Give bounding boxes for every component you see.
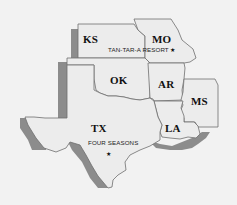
state-label-tx: TX [91, 122, 107, 134]
star-marker-icon: ★ [106, 151, 111, 157]
state-label-ks: KS [83, 33, 98, 45]
star-marker-icon: ★ [170, 47, 175, 53]
state-label-ms: MS [191, 95, 208, 107]
map-container: KS MO OK AR MS TX LA TAN-TAR-A RESORT ★ … [0, 0, 237, 205]
state-label-ok: OK [110, 74, 128, 86]
poi-label-tan-tar-a: TAN-TAR-A RESORT [108, 46, 169, 53]
state-label-mo: MO [152, 33, 171, 45]
poi-label-four-seasons: FOUR SEASONS [88, 139, 138, 146]
state-label-ar: AR [158, 78, 174, 90]
state-label-la: LA [165, 122, 181, 134]
